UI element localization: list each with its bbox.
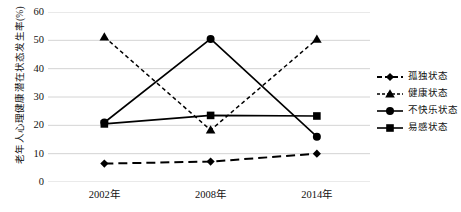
legend-item-3[interactable]: 易感状态 (376, 117, 461, 134)
line-chart: 老年人心理健康潜在状态发生率(%) 0102030405060 2002年200… (0, 0, 461, 212)
series-2 (100, 35, 321, 141)
legend-label: 孤独状态 (408, 68, 448, 82)
data-point (313, 133, 321, 141)
series-0 (100, 150, 321, 168)
legend-label: 不快乐状态 (408, 102, 459, 116)
y-tick-label: 10 (22, 149, 44, 159)
data-point (100, 159, 108, 167)
data-point (313, 112, 321, 120)
data-point (313, 150, 321, 158)
y-tick-label: 20 (22, 120, 44, 130)
chart-legend: 孤独状态健康状态不快乐状态易感状态 (376, 66, 461, 134)
legend-key-square-icon (376, 120, 404, 132)
legend-label: 易感状态 (408, 119, 448, 133)
data-point (312, 34, 322, 42)
data-point (207, 158, 215, 166)
plot-svg (48, 12, 370, 182)
legend-marker (386, 72, 394, 80)
y-tick-label: 50 (22, 35, 44, 45)
legend-key-circle-icon (376, 103, 404, 115)
data-point (207, 112, 215, 120)
x-tick-label: 2014年 (301, 186, 332, 201)
y-tick-label: 60 (22, 7, 44, 17)
legend-item-1[interactable]: 健康状态 (376, 83, 461, 100)
legend-item-0[interactable]: 孤独状态 (376, 66, 461, 83)
legend-label: 健康状态 (408, 85, 448, 99)
legend-key-triangle-icon (376, 86, 404, 98)
y-tick-label: 40 (22, 64, 44, 74)
legend-item-2[interactable]: 不快乐状态 (376, 100, 461, 117)
y-tick-label: 30 (22, 92, 44, 102)
x-tick-label: 2002年 (89, 186, 120, 201)
legend-marker (386, 124, 394, 132)
legend-marker (386, 107, 394, 115)
x-tick-label: 2008年 (195, 186, 226, 201)
data-point (100, 32, 110, 40)
y-tick-label: 0 (22, 177, 44, 187)
data-point (207, 35, 215, 43)
data-point (101, 120, 109, 128)
legend-key-diamond-icon (376, 69, 404, 81)
plot-area (48, 12, 370, 182)
y-axis-tick-labels: 0102030405060 (18, 0, 44, 212)
